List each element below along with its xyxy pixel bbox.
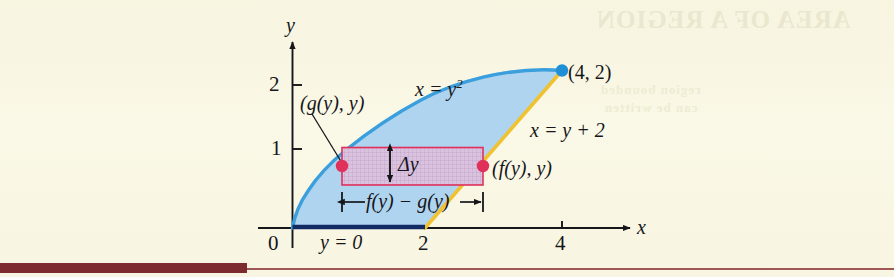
label-point-f: (f(y), y) [492, 157, 552, 180]
label-point-4-2: (4, 2) [568, 61, 611, 84]
label-width-expression: f(y) − g(y) [366, 190, 449, 213]
leader-line-g [312, 114, 342, 163]
y-tick-label-1: 1 [271, 136, 282, 161]
y-axis-label: y [286, 14, 295, 37]
x-tick-label-2: 2 [418, 231, 429, 256]
point-f-of-y [477, 160, 489, 172]
label-curve-parabola-text: x = y [415, 78, 456, 100]
label-baseline: y = 0 [320, 231, 362, 254]
label-delta-y: Δy [398, 153, 419, 176]
label-point-g: (g(y), y) [300, 92, 364, 115]
label-curve-line: x = y + 2 [530, 119, 605, 142]
point-g-of-y [336, 160, 348, 172]
label-curve-parabola-exponent: 2 [456, 76, 463, 91]
y-tick-label-2: 2 [269, 72, 280, 97]
figure-area-between-curves: AREA OF A REGION region bounded can be w… [0, 0, 894, 277]
page-rule-thick [0, 263, 247, 273]
plot-canvas [0, 0, 894, 277]
x-axis-label: x [637, 216, 646, 239]
point-4-2 [556, 64, 568, 76]
label-curve-parabola: x = y2 [415, 76, 463, 101]
origin-label: 0 [268, 231, 279, 256]
x-tick-label-4: 4 [555, 231, 566, 256]
